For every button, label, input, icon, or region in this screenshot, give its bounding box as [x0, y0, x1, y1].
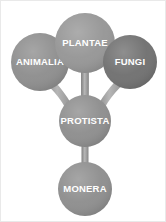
node-label-plantae: PLANTAE — [62, 37, 108, 48]
node-label-protista: PROTISTA — [61, 115, 110, 126]
node-fungi[interactable]: FUNGI — [103, 35, 157, 89]
node-label-monera: MONERA — [63, 183, 106, 194]
node-label-fungi: FUNGI — [115, 56, 146, 67]
node-protista[interactable]: PROTISTA — [59, 95, 111, 147]
node-label-animalia: ANIMALIA — [16, 56, 64, 67]
kingdom-tree-canvas: ANIMALIA PLANTAE FUNGI PROTISTA MONERA — [1, 1, 166, 222]
kingdom-tree-diagram: ANIMALIA PLANTAE FUNGI PROTISTA MONERA — [0, 0, 166, 222]
node-monera[interactable]: MONERA — [58, 162, 112, 216]
